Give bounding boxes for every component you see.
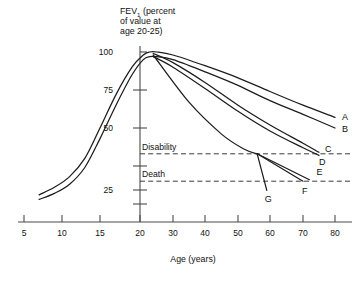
annotation-labels: ABCDEFG [265,112,348,204]
svg-text:60: 60 [265,228,275,238]
series-label-A: A [342,112,348,122]
disability-threshold-label: Disability [142,142,177,152]
svg-text:age 20-25): age 20-25) [120,26,163,36]
svg-text:5: 5 [22,228,27,238]
curve-group [39,52,335,200]
svg-text:75: 75 [104,85,114,95]
curve-steep-decline [153,55,257,154]
fev1-decline-chart: FEV1 (percent of value at age 20-25) 100… [0,0,363,284]
svg-text:50: 50 [233,228,243,238]
x-ticks [24,215,335,222]
x-tick-labels: 5 10 15 20 30 40 50 60 70 80 [22,228,340,238]
death-threshold-label: Death [142,169,165,179]
svg-text:20: 20 [135,228,145,238]
svg-text:70: 70 [298,228,308,238]
series-label-G: G [265,194,272,204]
svg-text:80: 80 [330,228,340,238]
svg-text:10: 10 [57,228,67,238]
svg-text:25: 25 [104,185,114,195]
svg-text:40: 40 [200,228,210,238]
x-axis-title: Age (years) [170,254,216,264]
curve-B [39,56,335,199]
svg-text:of value at: of value at [120,16,161,26]
y-axis-title: FEV1 (percent of value at age 20-25) [120,6,176,36]
curve-D [153,57,319,156]
series-label-F: F [302,186,308,196]
y-tick-labels: 100 75 50 25 [99,47,113,195]
curve-E-branch [257,154,309,180]
svg-text:15: 15 [95,228,105,238]
series-label-E: E [316,167,322,177]
curve-C [153,54,319,153]
series-label-C: C [325,144,332,154]
series-label-B: B [342,124,348,134]
chart-canvas: FEV1 (percent of value at age 20-25) 100… [0,0,363,284]
svg-text:100: 100 [99,47,113,57]
svg-text:30: 30 [168,228,178,238]
curve-F-branch [257,154,303,181]
